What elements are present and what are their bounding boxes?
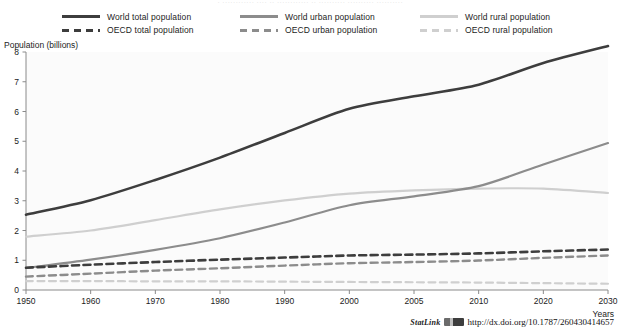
y-tick-label: 6 bbox=[14, 107, 19, 117]
statlink-badge-icon bbox=[444, 318, 464, 326]
x-tick-label: 1950 bbox=[17, 296, 36, 306]
x-tick-label: 2010 bbox=[469, 296, 488, 306]
legend-item-oecd-urban-population[interactable]: OECD urban population bbox=[240, 23, 440, 36]
legend-label-oecd-rural-population: OECD rural population bbox=[465, 25, 553, 35]
legend-column-3: World rural population OECD rural popula… bbox=[420, 10, 620, 36]
y-tick-label: 1 bbox=[14, 255, 19, 265]
y-axis-title: Population (billions) bbox=[4, 40, 78, 50]
x-tick-label: 2030 bbox=[599, 296, 618, 306]
legend-label-world-total-population: World total population bbox=[107, 12, 191, 22]
series-line-world-total-population bbox=[26, 46, 608, 215]
series-line-world-rural-population bbox=[26, 188, 608, 237]
statlink-url[interactable]: http://dx.doi.org/10.1787/260430414657 bbox=[467, 317, 614, 327]
x-tick-label: 2020 bbox=[534, 296, 553, 306]
y-tick-label: 4 bbox=[14, 166, 19, 176]
chart-legend: World total population OECD total popula… bbox=[0, 10, 620, 36]
statlink-footer[interactable]: StatLinkhttp://dx.doi.org/10.1787/260430… bbox=[0, 317, 614, 327]
legend-label-world-urban-population: World urban population bbox=[285, 12, 375, 22]
legend-label-oecd-urban-population: OECD urban population bbox=[285, 25, 377, 35]
chart-figure: · ············ ···· ·· ············ ·· ·… bbox=[0, 0, 620, 331]
legend-label-world-rural-population: World rural population bbox=[465, 12, 550, 22]
legend-column-2: World urban population OECD urban popula… bbox=[240, 10, 440, 36]
legend-swatch-oecd-rural-population bbox=[420, 24, 458, 35]
y-tick-label: 3 bbox=[14, 196, 19, 206]
legend-item-oecd-rural-population[interactable]: OECD rural population bbox=[420, 23, 620, 36]
series-line-world-urban-population bbox=[26, 143, 608, 268]
y-tick-label: 2 bbox=[14, 226, 19, 236]
x-tick-label: 2005 bbox=[405, 296, 424, 306]
x-tick-label: 1960 bbox=[81, 296, 100, 306]
legend-item-oecd-total-population[interactable]: OECD total population bbox=[62, 23, 262, 36]
legend-swatch-world-rural-population bbox=[420, 11, 458, 22]
legend-label-oecd-total-population: OECD total population bbox=[107, 25, 194, 35]
legend-swatch-world-urban-population bbox=[240, 11, 278, 22]
x-tick-label: 1980 bbox=[211, 296, 230, 306]
series-line-oecd-total-population bbox=[26, 250, 608, 268]
legend-column-1: World total population OECD total popula… bbox=[62, 10, 262, 36]
y-tick-label: 5 bbox=[14, 136, 19, 146]
legend-swatch-world-total-population bbox=[62, 11, 100, 22]
y-tick-label: 0 bbox=[14, 285, 19, 295]
legend-item-world-urban-population[interactable]: World urban population bbox=[240, 10, 440, 23]
y-tick-label: 7 bbox=[14, 77, 19, 87]
chart-svg: 0123456781950196019701980199020002005201… bbox=[0, 0, 620, 331]
x-tick-label: 1990 bbox=[275, 296, 294, 306]
x-tick-label: 2000 bbox=[340, 296, 359, 306]
series-line-oecd-rural-population bbox=[26, 281, 608, 284]
x-tick-label: 1970 bbox=[146, 296, 165, 306]
legend-item-world-total-population[interactable]: World total population bbox=[62, 10, 262, 23]
plot-area: 0123456781950196019701980199020002005201… bbox=[0, 0, 620, 331]
legend-item-world-rural-population[interactable]: World rural population bbox=[420, 10, 620, 23]
legend-swatch-oecd-urban-population bbox=[240, 24, 278, 35]
series-line-oecd-urban-population bbox=[26, 255, 608, 276]
clipped-title-fragment: · ············ ···· ·· ············ ·· ·… bbox=[0, 0, 620, 9]
statlink-label: StatLink bbox=[410, 318, 440, 327]
legend-swatch-oecd-total-population bbox=[62, 24, 100, 35]
